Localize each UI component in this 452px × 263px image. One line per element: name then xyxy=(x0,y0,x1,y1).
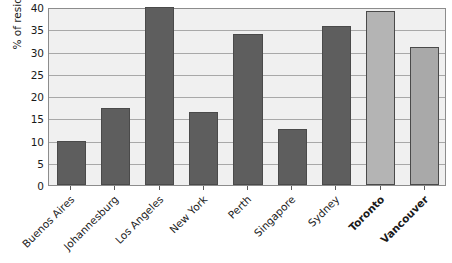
bar xyxy=(322,26,351,185)
y-tick-label: 5 xyxy=(37,158,44,169)
x-tick-mark xyxy=(380,186,381,190)
x-axis-label-perth: Perth xyxy=(226,193,254,221)
y-tick-label: 35 xyxy=(31,25,44,36)
bar xyxy=(410,47,439,185)
bar xyxy=(366,11,395,185)
bar-chart: % of residents 0510152025303540 Buenos A… xyxy=(0,0,452,263)
plot-area xyxy=(48,8,446,186)
x-tick-mark xyxy=(70,186,71,190)
bar xyxy=(189,112,218,185)
x-axis-label-sydney: Sydney xyxy=(306,193,342,229)
x-axis-label-new-york: New York xyxy=(167,193,209,235)
x-tick-mark xyxy=(114,186,115,190)
y-tick-label: 25 xyxy=(31,69,44,80)
y-tick-label: 20 xyxy=(31,92,44,103)
y-tick-label: 15 xyxy=(31,114,44,125)
x-tick-mark xyxy=(247,186,248,190)
y-tick-label: 40 xyxy=(31,3,44,14)
y-tick-label: 0 xyxy=(37,181,44,192)
x-axis-category-labels: Buenos AiresJohannesburgLos AngelesNew Y… xyxy=(48,186,446,263)
x-tick-mark xyxy=(335,186,336,190)
x-tick-mark xyxy=(291,186,292,190)
bar xyxy=(145,7,174,185)
bar xyxy=(233,34,262,185)
bar xyxy=(278,129,307,185)
y-tick-label: 10 xyxy=(31,136,44,147)
x-axis-label-toronto: Toronto xyxy=(346,193,386,233)
x-tick-mark xyxy=(203,186,204,190)
bar xyxy=(57,141,86,186)
x-tick-mark xyxy=(159,186,160,190)
x-axis-label-singapore: Singapore xyxy=(252,193,298,239)
x-tick-mark xyxy=(424,186,425,190)
bar xyxy=(101,108,130,185)
bar-series xyxy=(49,9,445,185)
y-tick-label: 30 xyxy=(31,47,44,58)
